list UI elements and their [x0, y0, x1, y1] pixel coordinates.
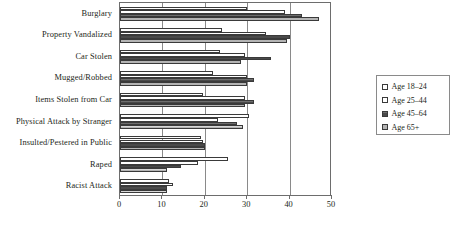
x-tick-label-40: 40: [284, 200, 292, 209]
legend-swatch-icon: [382, 97, 388, 103]
x-tick-label-0: 0: [117, 200, 121, 209]
y-axis-label-1: Property Vandalized: [42, 30, 112, 39]
bar-group: [120, 111, 331, 133]
x-tick-label-10: 10: [157, 200, 165, 209]
bar: [120, 17, 319, 21]
x-tick-50: [331, 195, 332, 199]
bar: [120, 60, 241, 64]
legend-item-label: Age 65+: [392, 123, 420, 132]
bar-group: [120, 68, 331, 90]
plot-area: [119, 2, 331, 196]
bar-group: [120, 25, 331, 47]
legend-item[interactable]: Age 25–44: [382, 94, 449, 108]
bar: [120, 147, 205, 151]
y-axis-label-7: Raped: [90, 159, 112, 168]
y-axis-label-5: Physical Attack by Stranger: [16, 116, 112, 125]
bar-group: [120, 3, 331, 25]
y-axis-label-8: Racist Attack: [66, 181, 112, 190]
bar-group: [120, 89, 331, 111]
x-tick-label-50: 50: [327, 200, 335, 209]
x-tick-10: [161, 195, 162, 199]
bar: [120, 39, 287, 43]
y-axis-label-2: Car Stolen: [75, 51, 112, 60]
chart-root: BurglaryProperty VandalizedCar StolenMug…: [0, 0, 455, 227]
bar: [120, 82, 247, 86]
x-tick-0: [119, 195, 120, 199]
y-axis-label-3: Mugged/Robbed: [54, 73, 112, 82]
x-tick-20: [204, 195, 205, 199]
legend-swatch-icon: [382, 111, 388, 117]
bar-group: [120, 175, 331, 197]
legend-item[interactable]: Age 45–64: [382, 107, 449, 121]
y-axis-label-0: Burglary: [82, 8, 112, 17]
legend-item-label: Age 18–24: [392, 82, 427, 91]
legend-item[interactable]: Age 65+: [382, 121, 449, 135]
bar: [120, 104, 245, 108]
y-axis-label-6: Insulted/Pestered in Public: [20, 138, 113, 147]
x-tick-40: [289, 195, 290, 199]
bar-group: [120, 46, 331, 68]
chart-legend: Age 18–24Age 25–44Age 45–64Age 65+: [376, 75, 450, 135]
legend-item-label: Age 45–64: [392, 109, 427, 118]
y-axis-category-labels: BurglaryProperty VandalizedCar StolenMug…: [0, 0, 116, 196]
bar-group: [120, 154, 331, 176]
y-axis-label-4: Items Stolen from Car: [35, 95, 112, 104]
legend-item-label: Age 25–44: [392, 96, 427, 105]
bar: [120, 168, 167, 172]
bar-group: [120, 132, 331, 154]
legend-swatch-icon: [382, 124, 388, 130]
x-tick-30: [246, 195, 247, 199]
bar: [120, 190, 167, 194]
bar: [120, 125, 243, 129]
x-tick-label-20: 20: [200, 200, 208, 209]
x-tick-label-30: 30: [242, 200, 250, 209]
legend-item[interactable]: Age 18–24: [382, 80, 449, 94]
legend-swatch-icon: [382, 84, 388, 90]
